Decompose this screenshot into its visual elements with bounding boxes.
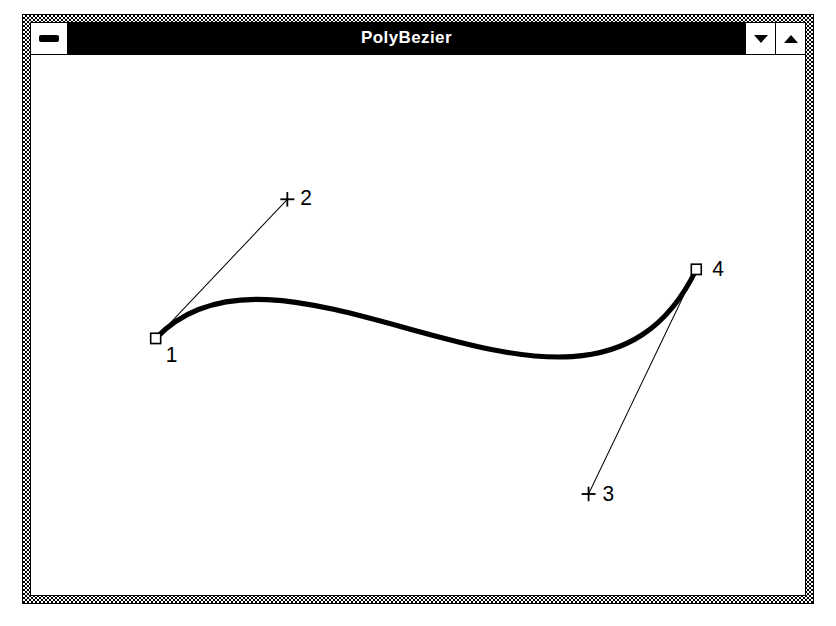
polybezier-window[interactable]: PolyBezier 1234	[22, 14, 814, 604]
drawing-client-area[interactable]: 1234	[31, 55, 805, 595]
minimize-bar-icon	[39, 35, 59, 42]
title-bar[interactable]: PolyBezier	[31, 23, 805, 55]
handle-line-3-4	[589, 269, 697, 494]
triangle-up-icon	[784, 35, 798, 43]
window-inner-frame: PolyBezier 1234	[30, 22, 806, 596]
bezier-curve	[156, 269, 697, 357]
endpoint-handle-1[interactable]	[151, 333, 161, 343]
control-point-cross-3[interactable]	[582, 487, 596, 501]
point-label-4: 4	[712, 256, 724, 280]
system-menu-button[interactable]	[31, 23, 68, 54]
endpoint-handle-4[interactable]	[691, 264, 701, 274]
bezier-canvas[interactable]: 1234	[31, 55, 805, 595]
window-title: PolyBezier	[68, 23, 745, 54]
point-label-2: 2	[300, 186, 312, 210]
control-point-labels: 1234	[166, 186, 724, 506]
maximize-button[interactable]	[775, 23, 805, 54]
point-label-1: 1	[166, 343, 178, 367]
handle-line-1-2	[156, 199, 288, 338]
triangle-down-icon	[754, 35, 768, 43]
minimize-button[interactable]	[745, 23, 775, 54]
point-label-3: 3	[603, 482, 615, 506]
title-bar-buttons	[745, 23, 805, 54]
